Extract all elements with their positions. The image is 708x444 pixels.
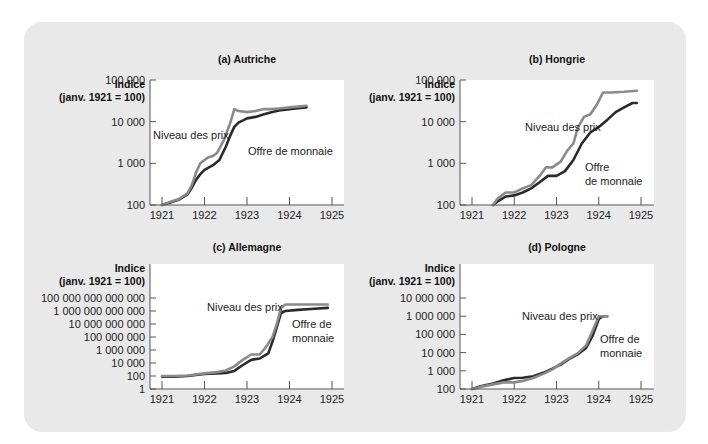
- x-tick-label: 1924: [277, 393, 301, 405]
- y-axis-label-line2: (janv. 1921 = 100): [59, 91, 145, 103]
- annotation-money-supply-line2: monnaie: [292, 332, 334, 344]
- x-tick-label: 1923: [235, 209, 259, 221]
- y-tick-label: 10 000: [421, 116, 455, 128]
- y-tick-label: 1 000 000: [96, 344, 145, 356]
- x-tick-label: 1924: [587, 393, 611, 405]
- x-tick-label: 1921: [150, 209, 174, 221]
- y-axis-label-line2: (janv. 1921 = 100): [369, 91, 455, 103]
- y-tick-label: 100 000: [415, 74, 455, 86]
- chart-title: (c) Allemagne: [213, 241, 282, 253]
- y-axis-label-line1: Indice: [425, 262, 456, 274]
- x-tick-label: 1925: [320, 209, 344, 221]
- y-tick-label: 1 000 000 000 000: [53, 305, 145, 317]
- x-tick-label: 1923: [235, 393, 259, 405]
- y-tick-label: 100: [437, 199, 455, 211]
- y-tick-label: 100 000 000 000 000: [41, 292, 145, 304]
- x-tick-label: 1922: [192, 209, 216, 221]
- x-tick-label: 1925: [629, 393, 653, 405]
- y-tick-label: 10 000 000 000: [69, 318, 145, 330]
- y-axis-ticks: 110010 0001 000 000100 000 00010 000 000…: [41, 292, 156, 395]
- annotation-price-level: Niveau des prix: [153, 129, 229, 141]
- x-tick-label: 1924: [587, 209, 611, 221]
- y-axis-label-line2: (janv. 1921 = 100): [59, 275, 145, 287]
- y-tick-label: 1 000 000: [406, 310, 455, 322]
- x-tick-label: 1923: [544, 209, 568, 221]
- annotation-price-level: Niveau des prix: [525, 121, 601, 133]
- y-tick-label: 1 000: [427, 365, 455, 377]
- chart-austria: (a) Autriche Indice (janv. 1921 = 100) 1…: [59, 53, 344, 221]
- annotation-money-supply-line2: monnaie: [600, 347, 642, 359]
- x-tick-label: 1921: [460, 209, 484, 221]
- y-tick-label: 100 000: [105, 74, 145, 86]
- y-axis-label-line2: (janv. 1921 = 100): [369, 275, 455, 287]
- x-tick-label: 1921: [150, 393, 174, 405]
- chart-title: (b) Hongrie: [529, 53, 585, 65]
- x-tick-label: 1924: [277, 209, 301, 221]
- y-tick-label: 1 000: [117, 157, 145, 169]
- x-tick-label: 1923: [544, 393, 568, 405]
- y-tick-label: 100: [437, 383, 455, 395]
- chart-title: (a) Autriche: [218, 53, 276, 65]
- annotation-price-level: Niveau des prix: [207, 301, 283, 313]
- chart-hungary: (b) Hongrie Indice (janv. 1921 = 100) 10…: [369, 53, 654, 221]
- x-tick-label: 1921: [460, 393, 484, 405]
- y-tick-label: 10 000: [111, 357, 145, 369]
- annotation-money-supply-line1: Offre: [585, 161, 609, 173]
- figure-canvas: (a) Autriche Indice (janv. 1921 = 100) 1…: [0, 0, 708, 444]
- x-tick-label: 1922: [502, 209, 526, 221]
- chart-germany: (c) Allemagne Indice (janv. 1921 = 100) …: [41, 241, 344, 405]
- plot-area: [150, 80, 344, 205]
- chart-title: (d) Pologne: [528, 241, 586, 253]
- y-tick-label: 1: [139, 383, 145, 395]
- x-tick-label: 1925: [320, 393, 344, 405]
- x-tick-label: 1922: [502, 393, 526, 405]
- annotation-money-supply-line1: Offre de: [292, 318, 332, 330]
- chart-poland: (d) Pologne Indice (janv. 1921 = 100) 10…: [369, 241, 654, 405]
- y-tick-label: 10 000: [111, 116, 145, 128]
- annotation-price-level: Niveau des prix: [522, 310, 598, 322]
- y-tick-label: 10 000 000: [400, 292, 455, 304]
- y-tick-label: 10 000: [421, 347, 455, 359]
- y-axis-label-line1: Indice: [115, 262, 146, 274]
- y-tick-label: 100 000: [415, 328, 455, 340]
- plot-area: [460, 264, 654, 389]
- y-tick-label: 100: [127, 370, 145, 382]
- annotation-money-supply: Offre de monnaie: [248, 145, 333, 157]
- y-tick-label: 1 000: [427, 157, 455, 169]
- y-tick-label: 100 000 000: [84, 331, 145, 343]
- y-axis-ticks: 1001 00010 000100 0001 000 00010 000 000: [400, 292, 466, 395]
- x-tick-label: 1922: [192, 393, 216, 405]
- annotation-money-supply-line1: Offre de: [600, 333, 640, 345]
- x-tick-label: 1925: [629, 209, 653, 221]
- annotation-money-supply-line2: de monnaie: [585, 175, 643, 187]
- y-tick-label: 100: [127, 199, 145, 211]
